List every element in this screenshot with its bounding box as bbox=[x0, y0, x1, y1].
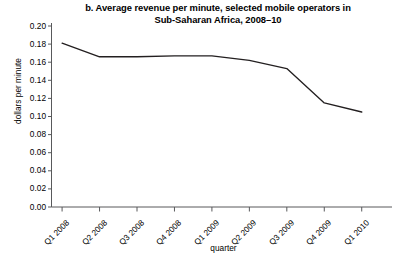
x-axis-tick-labels: Q1 2008Q2 2008Q3 2008Q4 2008Q1 2009Q2 20… bbox=[0, 0, 399, 260]
x-axis-title: quarter bbox=[0, 243, 399, 253]
chart-figure: b. Average revenue per minute, selected … bbox=[0, 0, 399, 260]
x-axis-tick-label: Q1 2008 bbox=[22, 218, 71, 260]
x-axis-title-text: quarter bbox=[162, 243, 236, 253]
